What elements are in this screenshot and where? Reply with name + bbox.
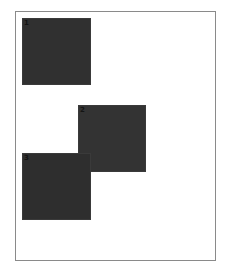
square-3[interactable]: 3 [22, 153, 91, 220]
square-1[interactable]: 1 [22, 18, 91, 85]
square-2-label: 2 [80, 106, 85, 114]
square-1-label: 1 [24, 19, 29, 27]
square-3-label: 3 [24, 154, 29, 162]
